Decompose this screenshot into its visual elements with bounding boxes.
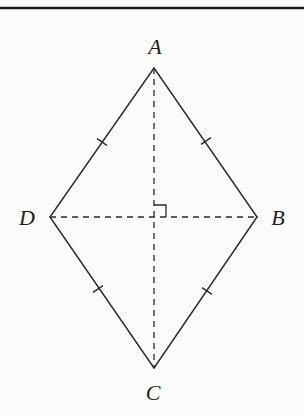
- right-angle-marker: [154, 205, 166, 217]
- vertex-label-b: B: [271, 205, 284, 230]
- vertex-labels: A B C D: [18, 34, 285, 405]
- tick-mark-da: [97, 139, 107, 146]
- equal-side-ticks: [93, 138, 212, 295]
- diagonals: [50, 68, 257, 368]
- vertex-label-c: C: [146, 380, 161, 405]
- side-bc: [154, 217, 257, 368]
- diagram-svg: A B C D: [0, 0, 304, 415]
- vertex-label-d: D: [18, 205, 35, 230]
- side-ab: [154, 68, 257, 217]
- tick-mark-bc: [202, 288, 212, 295]
- side-cd: [50, 217, 154, 368]
- vertex-label-a: A: [146, 34, 162, 59]
- rhombus-diagram: A B C D: [0, 0, 304, 415]
